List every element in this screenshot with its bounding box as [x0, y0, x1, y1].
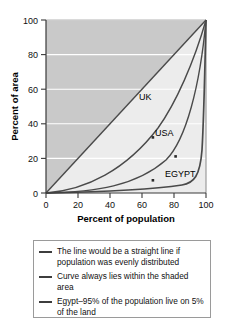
lorenz-curve-figure: 100 80 60 40 20 0 0 20 40 60 80 100 Perc…	[0, 0, 227, 228]
x-tick-label-40: 40	[105, 200, 115, 210]
legend-line-swatch-icon	[39, 276, 52, 278]
legend-item: Egypt–95% of the population live on 5% o…	[39, 296, 206, 318]
y-tick-label-0: 0	[33, 189, 38, 199]
y-tick-label-40: 40	[28, 119, 38, 129]
legend-item-label: Egypt–95% of the population live on 5% o…	[57, 296, 206, 318]
chart-legend: The line would be a straight line if pop…	[33, 240, 211, 318]
uk-curve-label: UK	[139, 92, 152, 102]
y-tick-label-20: 20	[28, 154, 38, 164]
legend-item: Curve always lies within the shaded area	[39, 271, 206, 293]
legend-item: The line would be a straight line if pop…	[39, 246, 206, 268]
y-tick-label-100: 100	[23, 16, 38, 26]
egypt-curve-label: EGYPT	[165, 169, 196, 179]
legend-item-label: Curve always lies within the shaded area	[57, 271, 206, 293]
uk-data-marker	[152, 136, 155, 139]
x-axis-ticks	[46, 193, 206, 198]
legend-line-swatch-icon	[39, 251, 52, 253]
x-tick-label-60: 60	[137, 200, 147, 210]
chart-page: 100 80 60 40 20 0 0 20 40 60 80 100 Perc…	[0, 0, 227, 328]
x-tick-label-80: 80	[169, 200, 179, 210]
usa-data-marker	[174, 155, 177, 158]
chart-canvas: 100 80 60 40 20 0 0 20 40 60 80 100 Perc…	[0, 0, 227, 228]
legend-line-swatch-icon	[39, 301, 52, 303]
y-axis-title: Percent of area	[9, 71, 20, 140]
y-axis-ticks	[41, 20, 46, 193]
x-axis-title: Percent of population	[77, 213, 175, 224]
x-tick-label-100: 100	[198, 200, 213, 210]
egypt-data-marker	[152, 179, 155, 182]
usa-curve-label: USA	[155, 128, 174, 138]
y-tick-label-60: 60	[28, 85, 38, 95]
y-tick-label-80: 80	[28, 50, 38, 60]
legend-item-label: The line would be a straight line if pop…	[57, 246, 206, 268]
x-tick-label-0: 0	[43, 200, 48, 210]
x-tick-label-20: 20	[73, 200, 83, 210]
